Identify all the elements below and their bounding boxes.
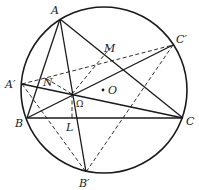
label-m: M bbox=[103, 42, 116, 55]
label-omega: Ω bbox=[76, 99, 83, 109]
geometry-figure: ABCA′B′C′ΩMNLO bbox=[0, 0, 199, 190]
label-l: L bbox=[65, 121, 73, 134]
label-b-prime: B′ bbox=[78, 177, 90, 190]
label-n: N bbox=[42, 76, 53, 89]
point-labels: ABCA′B′C′ΩMNLO bbox=[4, 4, 195, 190]
center-point-o bbox=[102, 89, 105, 92]
label-c-prime: C′ bbox=[176, 33, 187, 46]
label-b: B bbox=[14, 117, 23, 130]
label-a: A bbox=[50, 4, 59, 17]
segment-A_prime-B_prime bbox=[22, 84, 86, 172]
label-a-prime: A′ bbox=[4, 78, 16, 91]
label-o: O bbox=[108, 84, 117, 97]
label-c: C bbox=[186, 115, 195, 128]
